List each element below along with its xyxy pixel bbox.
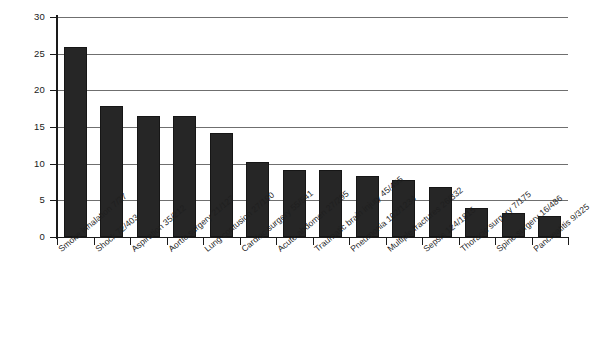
y-tick-label: 5	[19, 195, 45, 205]
y-tick-label: 20	[19, 85, 45, 95]
y-tick-label: 15	[19, 122, 45, 132]
bar[interactable]	[210, 133, 233, 237]
bar[interactable]	[64, 47, 87, 237]
y-tick-label: 10	[19, 159, 45, 169]
y-tick-label: 25	[19, 49, 45, 59]
y-tick-label: 30	[19, 12, 45, 22]
y-tick-label: 0	[19, 232, 45, 242]
bar-series	[57, 17, 568, 237]
bar-slot	[57, 17, 94, 237]
x-tick-mark	[568, 238, 569, 245]
bar-slot	[167, 17, 204, 237]
bar-slot	[459, 17, 496, 237]
bar-slot	[130, 17, 167, 237]
